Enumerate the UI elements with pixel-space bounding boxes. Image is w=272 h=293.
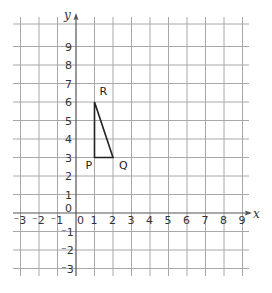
x-tick-label: 9: [239, 214, 246, 227]
y-tick-label: ⁻3: [61, 263, 74, 276]
y-tick-label: 9: [65, 41, 72, 54]
y-tick-label: 5: [65, 115, 72, 128]
y-tick-label: 2: [65, 170, 72, 183]
x-tick-label: 0: [77, 214, 84, 227]
vertex-label-q: Q: [119, 159, 128, 172]
triangle-pqr: PQR: [86, 85, 129, 172]
y-tick-label: 1: [65, 189, 72, 202]
x-tick-label: 1: [91, 214, 98, 227]
triangle: [95, 102, 114, 158]
y-tick-label: 6: [65, 96, 72, 109]
x-tick-label: 2: [109, 214, 116, 227]
coordinate-grid: ⁻3⁻2⁻101234567899876543210⁻1⁻2⁻3 PQR x y: [0, 0, 272, 293]
axes: [13, 13, 252, 276]
y-tick-label: ⁻1: [61, 226, 74, 239]
grid-lines: [13, 17, 249, 276]
x-tick-label: 7: [202, 214, 209, 227]
x-tick-label: 3: [128, 214, 135, 227]
y-tick-label: 0: [65, 202, 72, 215]
y-axis-label: y: [63, 8, 71, 22]
x-axis-label: x: [253, 207, 260, 221]
vertex-label-p: P: [86, 159, 93, 172]
vertex-label-r: R: [100, 85, 108, 98]
y-tick-label: 7: [65, 78, 72, 91]
y-tick-label: ⁻2: [61, 244, 74, 257]
x-tick-label: ⁻2: [32, 214, 45, 227]
x-tick-label: 4: [146, 214, 153, 227]
y-tick-label: 4: [65, 133, 72, 146]
y-tick-label: 3: [65, 152, 72, 165]
x-tick-label: 5: [165, 214, 172, 227]
y-axis-arrow-icon: [74, 13, 79, 20]
x-axis-arrow-icon: [245, 211, 252, 216]
x-tick-label: 6: [183, 214, 190, 227]
y-tick-label: 8: [65, 59, 72, 72]
x-tick-label: 8: [220, 214, 227, 227]
x-tick-label: ⁻3: [14, 214, 27, 227]
